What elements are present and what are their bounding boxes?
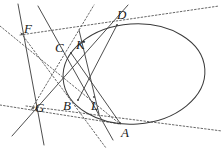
point-label-F: F — [24, 22, 32, 35]
point-label-K: K — [76, 38, 85, 51]
point-marker-F — [21, 33, 23, 35]
point-marker-G — [32, 107, 34, 109]
line-G-C-dashed — [31, 5, 94, 110]
segment-layer — [0, 4, 222, 148]
point-label-L: L — [91, 99, 98, 112]
point-marker-C — [70, 52, 72, 54]
conic-layer — [60, 19, 209, 129]
conic-ellipse — [60, 19, 209, 129]
point-label-D: D — [117, 8, 126, 21]
point-label-C: C — [55, 41, 64, 54]
point-marker-A — [119, 122, 121, 124]
point-marker-B — [77, 99, 79, 101]
figure-canvas — [0, 0, 223, 149]
point-marker-D — [116, 24, 118, 26]
point-label-A: A — [121, 126, 129, 139]
point-label-G: G — [35, 101, 44, 114]
geometry-figure: ABCDFGKL — [0, 0, 223, 149]
point-label-B: B — [63, 99, 71, 112]
